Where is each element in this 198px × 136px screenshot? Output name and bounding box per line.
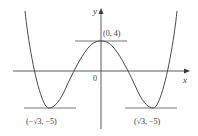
right-min-label: (√3, −5) — [134, 117, 161, 126]
y-axis-label: y — [92, 6, 97, 16]
left-min-label: (−√3, −5) — [26, 117, 57, 126]
y-axis-arrow-icon — [99, 8, 104, 14]
x-axis-label: x — [182, 75, 187, 85]
origin-label: 0 — [93, 74, 97, 83]
local-max-label: (0, 4) — [103, 29, 121, 38]
function-graph: y x 0 (0, 4) (−√3, −5) (√3, −5) — [0, 0, 198, 136]
x-axis-arrow-icon — [184, 69, 190, 74]
